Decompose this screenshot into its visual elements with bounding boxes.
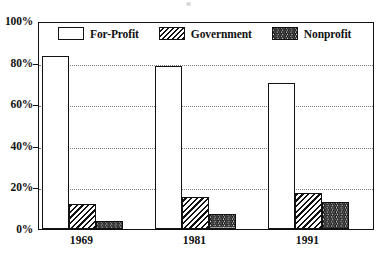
y-tick-label-80: 80% bbox=[0, 58, 33, 70]
zigzag-pattern bbox=[97, 222, 122, 228]
bar-1991-government bbox=[295, 193, 322, 229]
legend-label-government: Government bbox=[191, 28, 252, 40]
bar-1991-for-profit bbox=[268, 83, 295, 229]
plot-inner bbox=[39, 23, 373, 229]
legend-item-government: Government bbox=[159, 27, 252, 40]
legend-swatch-for-profit-icon bbox=[58, 27, 84, 40]
y-tick-label-40: 40% bbox=[0, 141, 33, 153]
legend-swatch-nonprofit-icon bbox=[272, 27, 298, 40]
bar-1969-for-profit bbox=[42, 56, 69, 229]
legend-label-for-profit: For-Profit bbox=[90, 28, 139, 40]
x-axis: 1969 1981 1991 bbox=[38, 234, 374, 256]
bar-chart: 100% 80% 60% 40% 20% 0% bbox=[0, 0, 379, 258]
legend-item-for-profit: For-Profit bbox=[58, 27, 139, 40]
bar-1991-nonprofit bbox=[322, 202, 349, 229]
plot-area bbox=[38, 22, 374, 230]
bar-1969-nonprofit bbox=[96, 221, 123, 229]
y-tick-label-20: 20% bbox=[0, 182, 33, 194]
gridline-60 bbox=[39, 106, 373, 107]
x-tick-label-1981: 1981 bbox=[157, 234, 232, 246]
x-tick-label-1991: 1991 bbox=[270, 234, 345, 246]
x-tick-label-1969: 1969 bbox=[44, 234, 119, 246]
y-tick-label-60: 60% bbox=[0, 99, 33, 111]
gridline-20 bbox=[39, 189, 373, 190]
legend-swatch-government-icon bbox=[159, 27, 185, 40]
chart-legend: For-Profit Government bbox=[58, 24, 371, 43]
y-tick-label-100: 100% bbox=[0, 16, 33, 28]
zigzag-pattern bbox=[273, 28, 297, 39]
zigzag-pattern bbox=[210, 215, 235, 228]
gridline-40 bbox=[39, 148, 373, 149]
legend-label-nonprofit: Nonprofit bbox=[304, 28, 351, 40]
legend-item-nonprofit: Nonprofit bbox=[272, 27, 351, 40]
y-axis: 100% 80% 60% 40% 20% 0% bbox=[0, 0, 33, 258]
bar-1969-government bbox=[69, 204, 96, 229]
scan-artifact-speck bbox=[186, 2, 191, 6]
gridline-80 bbox=[39, 65, 373, 66]
bar-1981-nonprofit bbox=[209, 214, 236, 229]
bar-1981-for-profit bbox=[155, 66, 182, 229]
y-tick-label-0: 0% bbox=[0, 224, 33, 236]
zigzag-pattern bbox=[323, 203, 348, 228]
bar-1981-government bbox=[182, 197, 209, 229]
